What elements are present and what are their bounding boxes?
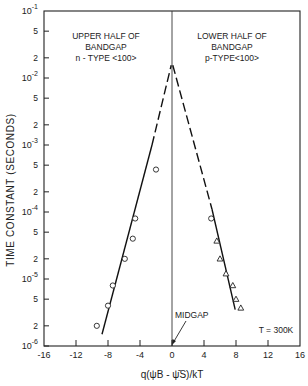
y-tick-label: 10-3 — [22, 137, 38, 150]
x-tick-label: -4 — [136, 350, 144, 360]
y-minor-tick-label: 5 — [33, 227, 38, 237]
y-tick-exponent: -3 — [32, 137, 38, 144]
midgap-annotation: MIDGAP — [172, 310, 209, 345]
y-tick-exponent: -6 — [32, 338, 38, 345]
left-annotation-line-1: UPPER HALF OF — [72, 31, 140, 41]
y-minor-tick-label: 5 — [33, 93, 38, 103]
y-minor-tick-label: 5 — [33, 294, 38, 304]
x-tick-label: 8 — [233, 350, 238, 360]
right-region-annotation: LOWER HALF OF BANDGAP p-TYPE<100> — [197, 31, 266, 63]
x-tick-label: 4 — [201, 350, 206, 360]
right-fit-solid — [212, 209, 235, 309]
right-annotation-line-3: p-TYPE<100> — [205, 53, 259, 63]
x-tick-label: 0 — [169, 350, 174, 360]
y-tick-label: 10-1 — [22, 3, 38, 16]
data-point-circle — [110, 283, 115, 288]
y-axis-ticks: 10-15210-25210-35210-45210-55210-6 — [22, 3, 49, 351]
x-tick-label: -8 — [104, 350, 112, 360]
x-tick-label: 12 — [263, 350, 273, 360]
x-axis-label-text: q(ψB - ψ̄S)/kT — [141, 369, 204, 380]
x-tick-label: -16 — [37, 350, 50, 360]
data-point-circle — [133, 216, 138, 221]
left-annotation-line-2: BANDGAP — [85, 42, 127, 52]
fit-lines — [102, 65, 235, 334]
right-annotation-line-1: LOWER HALF OF — [197, 31, 266, 41]
data-point-triangle — [230, 282, 236, 287]
y-tick-label: 10-6 — [22, 338, 38, 351]
y-tick-exponent: -5 — [32, 271, 38, 278]
midgap-arrowhead-icon — [172, 339, 176, 345]
y-minor-tick-label: 2 — [33, 53, 38, 63]
y-tick-exponent: -4 — [32, 204, 38, 211]
y-tick-label: 10-4 — [22, 204, 38, 217]
y-minor-tick-label: 5 — [33, 160, 38, 170]
x-tick-label: -12 — [69, 350, 82, 360]
x-tick-label: 16 — [295, 350, 305, 360]
y-minor-tick-label: 5 — [33, 26, 38, 36]
y-tick-exponent: -2 — [32, 70, 38, 77]
y-tick-label: 10-5 — [22, 271, 38, 284]
left-region-annotation: UPPER HALF OF BANDGAP n - TYPE <100> — [72, 31, 140, 63]
right-annotation-line-2: BANDGAP — [211, 42, 253, 52]
y-minor-tick-label: 2 — [33, 120, 38, 130]
y-minor-tick-label: 2 — [33, 254, 38, 264]
data-point-circle — [130, 236, 135, 241]
midgap-label: MIDGAP — [175, 310, 209, 320]
left-annotation-line-3: n - TYPE <100> — [76, 53, 137, 63]
right-fit-dashed — [173, 65, 212, 209]
y-minor-tick-label: 2 — [33, 187, 38, 197]
y-tick-label: 10-2 — [22, 70, 38, 83]
data-point-triangle — [217, 256, 223, 261]
x-axis-label: q(ψB - ψ̄S)/kT — [141, 369, 204, 380]
data-point-triangle — [223, 271, 229, 276]
chart: 10-15210-25210-35210-45210-55210-6 -16-1… — [0, 0, 308, 386]
data-point-circle — [122, 256, 127, 261]
data-point-circle — [105, 303, 110, 308]
temperature-label: T = 300K — [259, 325, 294, 335]
x-axis-ticks: -16-12-8-40481216 — [37, 340, 305, 360]
y-tick-exponent: -1 — [32, 3, 38, 10]
data-point-triangle — [233, 296, 239, 301]
data-point-triangle — [238, 305, 244, 310]
midgap-arrow — [173, 321, 186, 343]
data-point-circle — [94, 323, 99, 328]
y-minor-tick-label: 2 — [33, 321, 38, 331]
data-point-circle — [153, 167, 158, 172]
data-point-circle — [209, 216, 214, 221]
left-fit-dashed — [152, 65, 171, 145]
y-axis-label: TIME CONSTANT (SECONDS) — [5, 113, 16, 266]
